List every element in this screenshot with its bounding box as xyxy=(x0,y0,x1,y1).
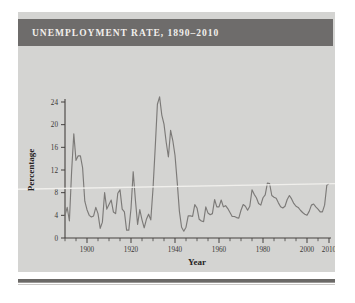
y-tick-label: 20 xyxy=(51,121,59,129)
x-tick-label: 1920 xyxy=(124,246,139,254)
x-axis-ticks: 1900192019401960198020002010 xyxy=(65,238,335,254)
x-tick-label: 1980 xyxy=(256,246,271,254)
chart-plot-area: 04812162024 1900192019401960198020002010… xyxy=(18,46,335,272)
x-tick-label: 2000 xyxy=(300,246,315,254)
x-axis-title: Year xyxy=(188,257,206,267)
y-axis-title: Percentage xyxy=(26,149,36,191)
data-series-line xyxy=(65,97,329,231)
y-tick-label: 0 xyxy=(54,235,58,243)
x-tick-label: 1900 xyxy=(80,246,95,254)
y-tick-label: 16 xyxy=(51,144,59,152)
x-tick-label: 1960 xyxy=(212,246,227,254)
y-tick-label: 12 xyxy=(51,167,59,175)
y-tick-label: 4 xyxy=(54,212,58,220)
page-bottom-rule xyxy=(18,279,335,283)
scan-artifact-line xyxy=(18,184,335,190)
figure-title-bar: UNEMPLOYMENT RATE, 1890–2010 xyxy=(18,19,333,46)
x-tick-label: 2010 xyxy=(322,246,335,254)
y-tick-label: 8 xyxy=(54,189,58,197)
page-title: UNEMPLOYMENT RATE, 1890–2010 xyxy=(18,28,219,38)
y-tick-label: 24 xyxy=(51,99,59,107)
unemployment-line-chart: 04812162024 1900192019401960198020002010… xyxy=(18,46,335,272)
figure-panel: UNEMPLOYMENT RATE, 1890–2010 04812162024… xyxy=(18,12,335,272)
page-bottom-rule-secondary xyxy=(18,284,335,285)
y-axis-ticks: 04812162024 xyxy=(51,99,65,243)
x-tick-label: 1940 xyxy=(168,246,183,254)
